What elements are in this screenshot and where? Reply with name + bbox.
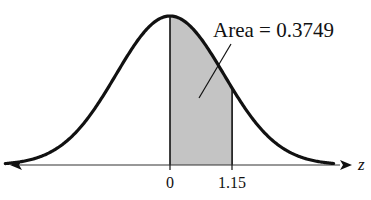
tick-label-0: 0 bbox=[166, 174, 174, 191]
area-annotation: Area = 0.3749 bbox=[213, 18, 334, 42]
right-arrow-icon bbox=[340, 160, 352, 170]
normal-curve-diagram: 0 1.15 z Area = 0.3749 bbox=[0, 0, 371, 200]
tick-label-115: 1.15 bbox=[218, 174, 246, 191]
axis-label-z: z bbox=[357, 155, 365, 174]
